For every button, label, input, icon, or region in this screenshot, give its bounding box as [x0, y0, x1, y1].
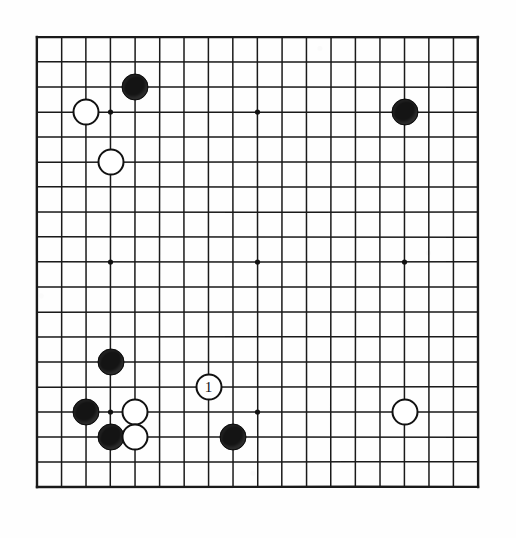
stone-black-q4[interactable]	[391, 99, 418, 126]
star-point	[255, 259, 260, 264]
stone-move-number	[98, 425, 123, 450]
stone-move-number: 1	[197, 376, 220, 399]
scanned-page: 1	[0, 0, 516, 538]
stone-move-number	[98, 350, 123, 375]
stone-move-number	[124, 401, 147, 424]
stone-black-d14[interactable]	[97, 349, 124, 376]
stone-move-number	[393, 401, 416, 424]
stone-white-q16[interactable]	[391, 399, 418, 426]
star-point	[108, 259, 113, 264]
stone-move-number	[123, 75, 148, 100]
stone-white-e16[interactable]	[122, 399, 149, 426]
go-board[interactable]: 1	[37, 37, 478, 487]
stone-white-d6[interactable]	[97, 149, 124, 176]
star-point	[255, 109, 260, 114]
star-point	[108, 409, 113, 414]
stone-black-c16[interactable]	[73, 399, 100, 426]
stone-move-number	[221, 425, 246, 450]
stone-move-number	[75, 101, 98, 124]
stone-move-number	[99, 151, 122, 174]
star-point	[108, 109, 113, 114]
star-point	[255, 409, 260, 414]
stone-move-number	[392, 100, 417, 125]
stone-move-number	[74, 400, 99, 425]
stone-black-d17[interactable]	[97, 424, 124, 451]
star-point	[402, 259, 407, 264]
stone-white-h15[interactable]: 1	[195, 374, 222, 401]
stone-move-number	[124, 426, 147, 449]
stone-black-e3[interactable]	[122, 74, 149, 101]
stone-black-j17[interactable]	[220, 424, 247, 451]
stone-white-c4[interactable]	[73, 99, 100, 126]
stone-white-e17[interactable]	[122, 424, 149, 451]
